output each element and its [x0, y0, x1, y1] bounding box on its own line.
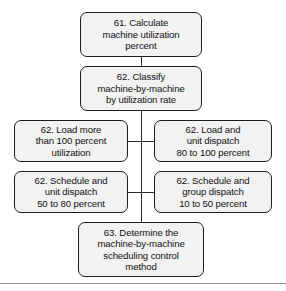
connector-stub-load-more-than-100 [128, 141, 142, 142]
node-load-more-label: 62. Load more than 100 percent utilizati… [18, 124, 124, 158]
node-load-and-unit-dispatch-label: 62. Load and unit dispatch 80 to 100 per… [158, 124, 268, 158]
connector-stub-schedule-and-group-dispatch [141, 192, 155, 193]
node-schedule-and-unit-dispatch: 62. Schedule and unit dispatch 50 to 80 … [14, 171, 128, 213]
node-determine-scheduling-control-method: 63. Determine the machine-by-machine sch… [78, 222, 204, 277]
node-load-and-unit-dispatch: 62. Load and unit dispatch 80 to 100 per… [154, 120, 272, 162]
node-calculate-label: 61. Calculate machine utilization percen… [84, 17, 198, 51]
node-schedule-and-group-dispatch: 62. Schedule and group dispatch 10 to 50… [154, 171, 272, 213]
flowchart-diagram: 61. Calculate machine utilization percen… [0, 0, 286, 291]
node-schedule-and-group-dispatch-label: 62. Schedule and group dispatch 10 to 50… [158, 175, 268, 209]
node-load-more-than-100-percent: 62. Load more than 100 percent utilizati… [14, 120, 128, 162]
node-schedule-and-unit-dispatch-label: 62. Schedule and unit dispatch 50 to 80 … [18, 175, 124, 209]
node-classify-machine-by-machine: 62. Classify machine-by-machine by utili… [80, 66, 202, 111]
connector-stub-schedule-and-unit-dispatch [128, 192, 142, 193]
connector-stub-load-and-unit-dispatch [141, 141, 155, 142]
node-calculate-machine-utilization: 61. Calculate machine utilization percen… [80, 12, 202, 57]
node-classify-label: 62. Classify machine-by-machine by utili… [84, 71, 198, 105]
connector-central-spine [141, 111, 142, 222]
footer-divider [0, 283, 286, 284]
node-determine-label: 63. Determine the machine-by-machine sch… [82, 227, 200, 273]
connector-calculate-to-classify [141, 57, 142, 66]
